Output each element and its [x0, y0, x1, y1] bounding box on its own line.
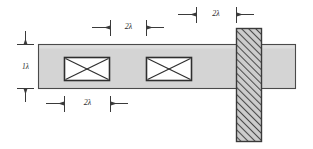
dimension-beam-height: 1λ [17, 31, 34, 102]
middle-dim-label: 2λ [125, 22, 133, 31]
brace-right [147, 58, 192, 81]
beam-diagram-svg: 1λ 2λ 2λ 2λ [0, 0, 313, 149]
vertical-hatched-column [237, 29, 262, 142]
brace-left [65, 58, 110, 81]
column-body [237, 29, 262, 142]
dimension-bottom: 2λ [46, 96, 128, 112]
bottom-dim-label: 2λ [84, 98, 92, 107]
top-right-dim-label: 2λ [212, 9, 220, 18]
diagram-canvas: 1λ 2λ 2λ 2λ [0, 0, 313, 149]
dimension-middle: 2λ [92, 20, 164, 36]
dimension-top-right: 2λ [178, 7, 254, 23]
height-dim-label: 1λ [22, 62, 30, 71]
